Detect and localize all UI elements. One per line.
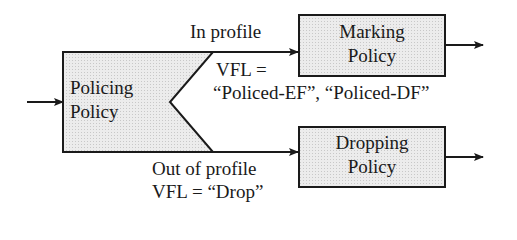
in-profile-label: In profile	[190, 21, 261, 43]
marking-line2: Policy	[299, 44, 445, 68]
in-profile-vfl-values: “Policed-EF”, “Policed-DF”	[213, 82, 429, 104]
policing-policy-label: Policing Policy	[70, 76, 170, 124]
policing-line2: Policy	[70, 100, 170, 124]
policing-line1: Policing	[70, 76, 170, 100]
dropping-line2: Policy	[299, 155, 445, 179]
out-profile-label: Out of profile	[152, 158, 256, 180]
in-profile-vfl-label: VFL =	[216, 59, 267, 81]
out-profile-vfl-label: VFL = “Drop”	[152, 181, 263, 203]
dropping-line1: Dropping	[299, 131, 445, 155]
marking-policy-label: Marking Policy	[299, 20, 445, 68]
marking-line1: Marking	[299, 20, 445, 44]
dropping-policy-label: Dropping Policy	[299, 131, 445, 179]
